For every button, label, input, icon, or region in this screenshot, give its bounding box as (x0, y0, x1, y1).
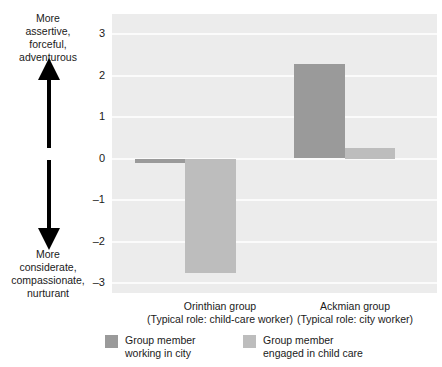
y-tick-label: –1 (79, 194, 105, 205)
legend-swatch-light-icon (243, 335, 256, 348)
gridline (112, 282, 437, 284)
plot-area (112, 14, 437, 293)
category-label-ackmian: Ackmian group (Typical role: city worker… (268, 300, 442, 326)
bar (185, 159, 235, 273)
legend-swatch-dark-icon (105, 335, 118, 348)
up-arrow-head (38, 58, 60, 80)
legend-label-engaged-in-child-care-line1: Group member (263, 334, 363, 347)
annotation-top-line-3: forceful, (0, 38, 96, 51)
category-label-ackmian-line1: Ackmian group (268, 300, 442, 313)
y-tick-label: 0 (79, 153, 105, 164)
y-tick-label: 1 (79, 111, 105, 122)
gridline (112, 116, 437, 118)
legend-item-engaged-in-child-care: Group member engaged in child care (243, 334, 363, 360)
gridline (112, 199, 437, 201)
bar (135, 159, 185, 163)
legend-label-working-in-city: Group member working in city (125, 334, 196, 360)
legend-label-working-in-city-line2: working in city (125, 347, 196, 360)
up-arrow-shaft (47, 78, 51, 148)
annotation-bottom-line-4: nurturant (0, 287, 96, 300)
y-tick-label: 3 (79, 28, 105, 39)
gridline (112, 75, 437, 77)
bar (294, 64, 344, 159)
legend-label-working-in-city-line1: Group member (125, 334, 196, 347)
y-tick-label: 2 (79, 70, 105, 81)
chart-figure: More assertive, forceful, adventurous Mo… (0, 0, 442, 367)
legend-label-engaged-in-child-care-line2: engaged in child care (263, 347, 363, 360)
bar (345, 148, 395, 158)
annotation-bottom-line-1: More (0, 248, 96, 261)
gridline (112, 241, 437, 243)
annotation-bottom-line-2: considerate, (0, 261, 96, 274)
down-arrow-head (38, 228, 60, 250)
annotation-top-line-1: More (0, 12, 96, 25)
category-label-ackmian-line2: (Typical role: city worker) (268, 313, 442, 326)
down-arrow-shaft (47, 160, 51, 230)
y-tick-label: –3 (79, 277, 105, 288)
legend-item-working-in-city: Group member working in city (105, 334, 196, 360)
legend-label-engaged-in-child-care: Group member engaged in child care (263, 334, 363, 360)
y-tick-label: –2 (79, 236, 105, 247)
axis-annotation-bottom: More considerate, compassionate, nurtura… (0, 248, 96, 300)
gridline (112, 33, 437, 35)
